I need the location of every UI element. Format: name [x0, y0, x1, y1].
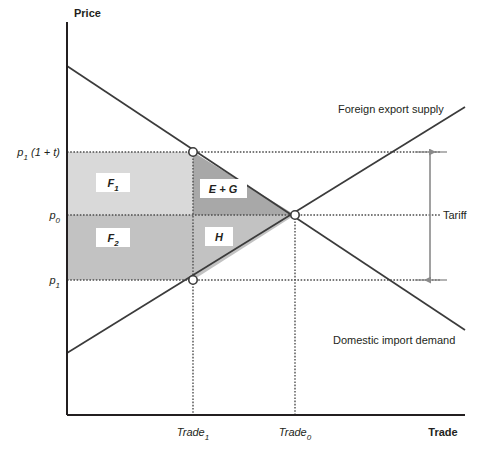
tariff-annotation-label: Tariff	[443, 209, 468, 221]
y-axis-title: Price	[74, 7, 101, 19]
curve-label-domestic-import-demand: Domestic import demand	[333, 334, 455, 346]
marker-free-trade-equilibrium	[291, 211, 299, 219]
region-EG-label: E + G	[209, 183, 238, 195]
price-tick-p0: p0	[48, 209, 60, 225]
price-tick-p1t: p1 (1 + t)	[16, 146, 60, 162]
figure-container: F1 F2 E + G H Price Trade p1 (1 + t) p0 …	[0, 0, 488, 452]
region-H-fill	[193, 215, 295, 280]
marker-demand-at-tariff-price	[189, 148, 197, 156]
tariff-welfare-diagram: F1 F2 E + G H Price Trade p1 (1 + t) p0 …	[0, 0, 488, 452]
curve-label-foreign-export-supply: Foreign export supply	[338, 103, 444, 115]
trade-tick-trade0: Trade0	[279, 426, 312, 442]
trade-tick-trade1: Trade1	[177, 426, 209, 442]
marker-supply-at-world-price	[189, 276, 197, 284]
price-tick-p1: p1	[48, 274, 60, 290]
region-F2-fill	[67, 215, 193, 280]
region-H-label: H	[215, 231, 224, 243]
x-axis-title: Trade	[428, 426, 457, 438]
